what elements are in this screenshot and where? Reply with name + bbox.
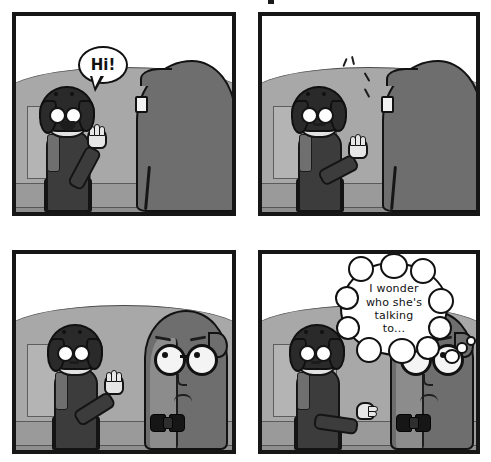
woman-scarf xyxy=(55,372,68,410)
thought-line-2: who she's xyxy=(366,296,422,309)
creature-glasses-temple-icon xyxy=(381,96,394,113)
thought-bubble-bump xyxy=(356,337,382,363)
creature-pupil-right xyxy=(194,352,200,358)
woman-character xyxy=(34,88,106,212)
creature-glasses-bridge xyxy=(180,355,188,358)
thought-bubble-bump xyxy=(380,253,408,279)
thought-line-1: I wonder xyxy=(366,282,422,295)
creature-glasses-temple-icon xyxy=(135,96,148,113)
woman-waving-hand xyxy=(348,138,368,159)
panel-3-scene xyxy=(16,254,232,450)
woman-neutral-mouth xyxy=(311,361,321,364)
creature-frown-mouth xyxy=(420,394,438,404)
woman-pupil-left xyxy=(306,92,310,96)
creature-back-view xyxy=(382,60,480,212)
woman-hand xyxy=(104,374,124,395)
woman-eye-right xyxy=(317,107,334,124)
thought-bubble-bump xyxy=(410,258,436,284)
thought-bubble-bump xyxy=(428,288,454,314)
cropped-title-mark xyxy=(268,0,274,4)
creature-glasses-right-icon xyxy=(186,344,218,376)
woman-eye-left xyxy=(57,345,74,362)
creature-nose xyxy=(177,374,187,386)
thought-bubble-bump xyxy=(336,316,360,340)
woman-finger xyxy=(360,136,366,146)
woman-pupil-left xyxy=(62,330,66,334)
panel-4-scene: I wonder who she's talking to... xyxy=(262,254,476,450)
woman-eye-right xyxy=(73,345,90,362)
comic-panel-3 xyxy=(12,250,236,454)
thought-trail-dot-small xyxy=(466,336,476,346)
creature-front-view xyxy=(144,314,230,450)
woman-scarf xyxy=(299,134,312,172)
creature-pupil-left xyxy=(162,352,168,358)
woman-finger xyxy=(116,372,122,382)
creature-bow-tie xyxy=(150,414,184,430)
thought-bubble-bump xyxy=(348,256,374,282)
woman-neutral-mouth xyxy=(69,361,79,364)
speech-bubble-text: Hi! xyxy=(91,56,116,74)
bow-tie-knot xyxy=(163,417,173,429)
thought-bubble-bump xyxy=(416,336,440,360)
bow-tie-knot xyxy=(409,417,419,429)
thought-bubble: I wonder who she's talking to... xyxy=(340,262,448,356)
woman-pointing-hand xyxy=(356,402,375,420)
creature-frown-mouth xyxy=(174,394,192,404)
creature-shaggy-fur xyxy=(386,68,418,86)
creature-nose xyxy=(423,374,433,386)
motion-line xyxy=(351,56,355,65)
woman-pupil-right xyxy=(320,330,324,334)
woman-character xyxy=(286,88,358,212)
thought-bubble-text-block: I wonder who she's talking to... xyxy=(366,282,422,336)
creature-shaggy-fur xyxy=(140,68,172,86)
creature-bow-tie xyxy=(396,414,430,430)
thought-bubble-bump xyxy=(335,286,359,310)
thought-bubble-bump xyxy=(388,338,416,364)
thought-line-4: to... xyxy=(366,322,422,335)
woman-scarf xyxy=(297,372,310,410)
woman-pupil-right xyxy=(322,92,326,96)
comic-panel-4: I wonder who she's talking to... xyxy=(258,250,480,454)
woman-pupil-left xyxy=(54,92,58,96)
speech-bubble-tail-fill xyxy=(92,75,101,87)
comic-panel-2 xyxy=(258,12,480,216)
woman-finger xyxy=(99,126,105,136)
woman-finger xyxy=(368,411,377,417)
woman-character xyxy=(42,326,114,450)
woman-eye-left xyxy=(299,345,316,362)
creature-glasses-left-icon xyxy=(154,344,186,376)
woman-eye-right xyxy=(315,345,332,362)
woman-pupil-right xyxy=(78,330,82,334)
woman-character xyxy=(284,326,356,450)
woman-slight-smile-mouth xyxy=(313,123,326,126)
creature-back-view xyxy=(136,60,236,212)
woman-pupil-right xyxy=(70,92,74,96)
panel-1-scene: Hi! xyxy=(16,16,232,212)
woman-eye-left xyxy=(301,107,318,124)
comic-strip: Hi! xyxy=(0,0,491,462)
woman-waving-hand xyxy=(87,128,107,149)
motion-line xyxy=(342,58,347,67)
comic-panel-1: Hi! xyxy=(12,12,236,216)
thought-line-3: talking xyxy=(366,309,422,322)
woman-scarf xyxy=(47,134,60,172)
woman-pupil-left xyxy=(304,330,308,334)
panel-2-scene xyxy=(262,16,476,212)
